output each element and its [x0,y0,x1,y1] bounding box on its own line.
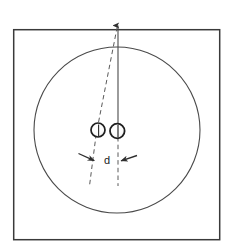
diagram-canvas: d [0,0,232,250]
slanted-dashed-line [97,27,117,131]
right-dimension-arrow [121,156,137,161]
distance-label: d [104,154,110,166]
physics-diagram-figure: d [0,0,232,250]
left-sphere [91,123,105,137]
right-sphere [110,124,125,139]
left-dimension-arrow [79,154,95,161]
